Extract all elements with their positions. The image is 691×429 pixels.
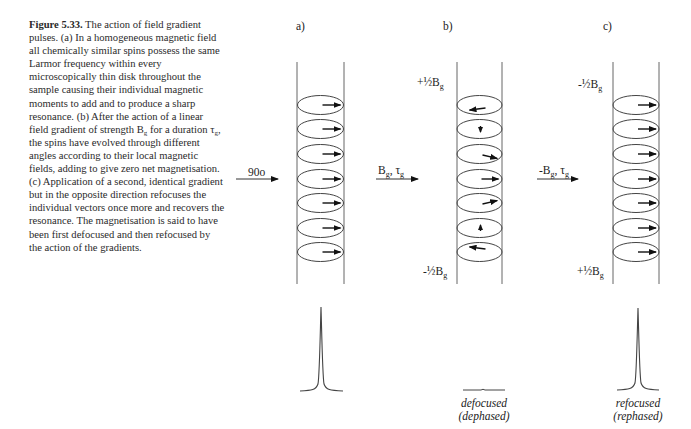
spectrum-sharp-peak-a: [300, 307, 343, 391]
gradient-diagram: [0, 0, 691, 429]
pulse-label-neg-gradient: -Bg, τg: [539, 164, 569, 176]
pulse-label-90: 90o: [248, 166, 265, 178]
spin-disk: [457, 219, 502, 238]
spin-disks-b: [457, 96, 502, 262]
spin-disk: [457, 243, 502, 262]
spin-disk: [457, 96, 502, 115]
field-label-c-bottom: +½Bg: [577, 265, 604, 277]
panel-label-a: a): [296, 20, 305, 32]
magnetisation-vector-arrow-icon: [470, 108, 486, 110]
spectrum-caption-c: refocused (rephased): [608, 397, 668, 423]
spin-disks-a: [298, 96, 344, 262]
spin-disks-c: [613, 96, 659, 262]
spin-disk: [457, 120, 502, 139]
panel-label-c: c): [603, 20, 612, 32]
spin-disk: [457, 145, 502, 164]
magnetisation-vector-arrow-icon: [470, 247, 486, 249]
spin-disk: [457, 194, 502, 213]
magnetisation-vector-arrow-icon: [483, 155, 498, 158]
spectrum-sharp-peak-c: [617, 308, 659, 390]
pulse-label-gradient: Bg, τg: [378, 164, 404, 176]
field-label-b-bottom: -½Bg: [423, 265, 447, 277]
spectrum-caption-b: defocused (dephased): [455, 397, 513, 423]
field-label-b-top: +½Bg: [417, 76, 444, 88]
field-label-c-top: -½Bg: [578, 78, 602, 90]
panel-label-b: b): [443, 20, 453, 32]
spectrum-flat-b: [463, 389, 505, 390]
magnetisation-vector-arrow-icon: [483, 201, 498, 204]
